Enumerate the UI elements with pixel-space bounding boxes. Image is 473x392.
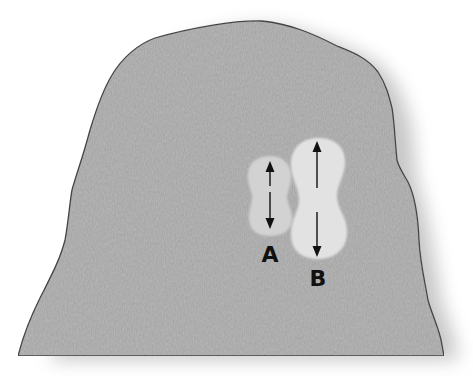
- region-a-label: A: [261, 242, 278, 267]
- diagram-canvas: A B: [0, 0, 473, 392]
- region-b-label: B: [310, 266, 327, 291]
